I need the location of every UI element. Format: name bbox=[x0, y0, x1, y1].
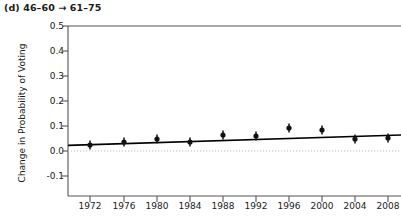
data-point bbox=[352, 136, 357, 141]
y-axis-tick-marks bbox=[62, 26, 68, 176]
data-point bbox=[87, 142, 92, 147]
data-point bbox=[220, 132, 225, 137]
data-point bbox=[385, 135, 390, 140]
data-point bbox=[286, 125, 291, 130]
trend-line bbox=[68, 135, 401, 145]
data-point bbox=[121, 139, 126, 144]
plot-area bbox=[0, 0, 401, 223]
data-point bbox=[319, 127, 324, 132]
data-point bbox=[253, 133, 258, 138]
chart-figure: (d) 46–60 → 61–75 Change in Probability … bbox=[0, 0, 401, 223]
data-point bbox=[154, 136, 159, 141]
axis-lines bbox=[68, 26, 401, 196]
data-point bbox=[187, 139, 192, 144]
x-axis-tick-marks bbox=[90, 196, 388, 202]
